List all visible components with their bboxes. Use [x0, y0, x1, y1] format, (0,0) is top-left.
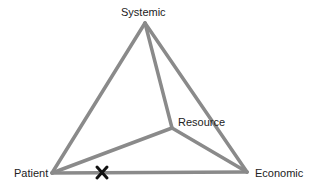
- label-resource: Resource: [178, 116, 225, 128]
- label-systemic: Systemic: [121, 6, 166, 18]
- edge-resource-economic: [172, 128, 247, 172]
- edge-patient-economic: [52, 172, 247, 173]
- edge-patient-resource: [52, 128, 172, 173]
- label-patient: Patient: [14, 167, 48, 179]
- tetrahedron-diagram: [0, 0, 320, 187]
- edge-systemic-economic: [145, 23, 247, 172]
- label-economic: Economic: [255, 167, 303, 179]
- edge-systemic-resource: [145, 23, 172, 128]
- edge-systemic-patient: [52, 23, 145, 173]
